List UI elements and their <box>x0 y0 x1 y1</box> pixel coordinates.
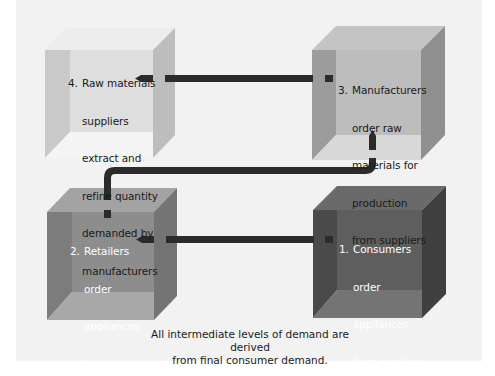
arrow-3-to-4-bar <box>165 75 313 82</box>
box-4-number: 4. <box>68 77 82 90</box>
arrow-1-to-2-origin-square <box>325 236 333 243</box>
box-3-number: 3. <box>338 84 352 97</box>
caption-line-2: from final consumer demand. <box>130 354 370 367</box>
arrow-1-to-2-bar <box>166 236 314 243</box>
diagram-caption: All intermediate levels of demand are de… <box>130 328 370 367</box>
box-4-top-face <box>45 28 175 50</box>
arrow-3-to-4-origin-square <box>325 75 333 82</box>
caption-line-1: All intermediate levels of demand are de… <box>130 328 370 354</box>
box-2-number: 2. <box>70 245 84 258</box>
box-1-number: 1. <box>339 243 353 256</box>
